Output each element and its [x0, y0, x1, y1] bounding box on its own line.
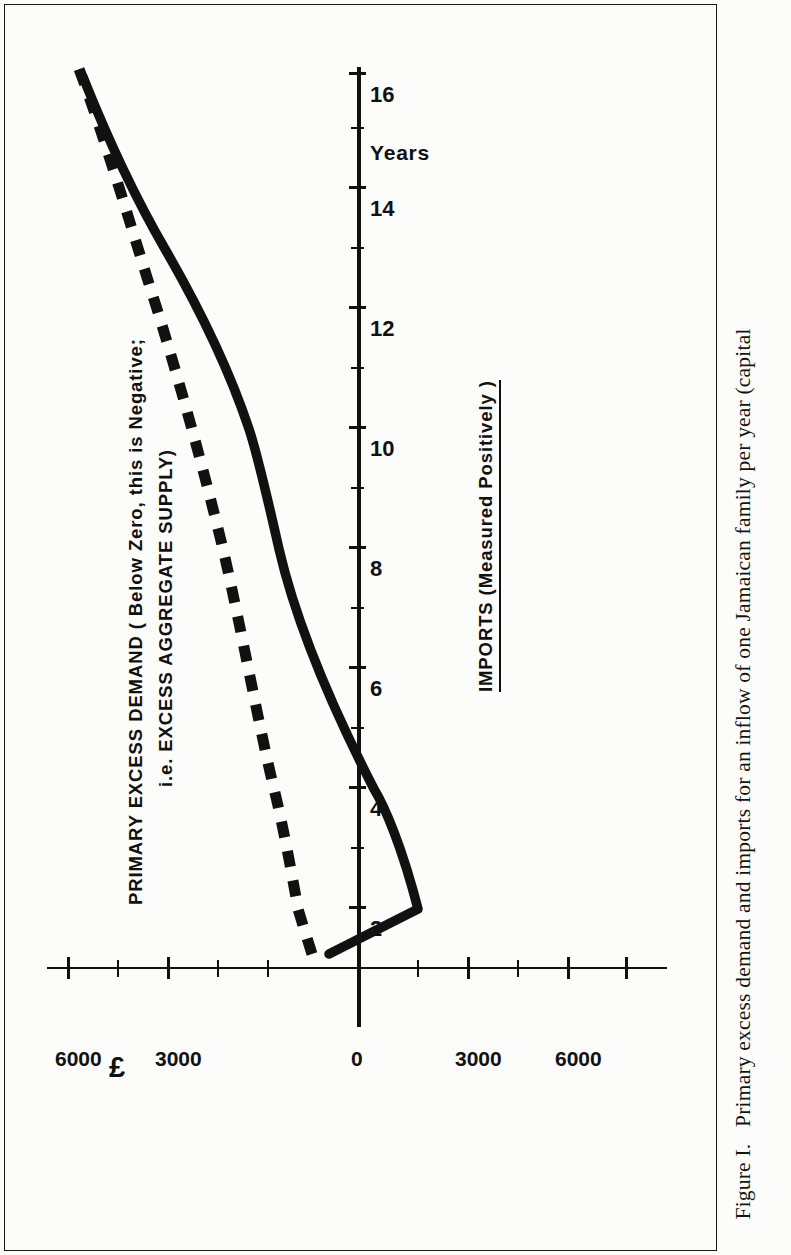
series-label-imports: IMPORTS (Measured Positively ) — [475, 380, 501, 692]
series-label-primary-excess-demand-line1: PRIMARY EXCESS DEMAND ( Below Zero, this… — [125, 338, 147, 905]
series-imports-path — [79, 69, 312, 954]
series-label-primary-excess-demand-line2: i.e. EXCESS AGGREGATE SUPPLY) — [155, 449, 177, 787]
series-label-imports-text: IMPORTS (Measured Positively ) — [475, 380, 496, 692]
chart-plot-area: 2 4 6 8 10 12 14 16 Years 6000 3000 0 30… — [7, 0, 707, 1147]
figure-caption-text: Primary excess demand and imports for an… — [731, 328, 755, 1127]
chart-curves — [7, 0, 707, 1147]
figure-page: 2 4 6 8 10 12 14 16 Years 6000 3000 0 30… — [0, 0, 791, 1255]
figure-caption-area: Figure I. Primary excess demand and impo… — [718, 0, 791, 1255]
figure-caption: Figure I. Primary excess demand and impo… — [731, 0, 756, 1220]
figure-number: Figure I. — [731, 1144, 755, 1220]
